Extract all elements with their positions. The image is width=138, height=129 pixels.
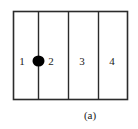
cell-label-3: 3 <box>75 56 89 67</box>
figure-container: 1 2 3 4 (a) <box>0 0 138 129</box>
figure-caption: (a) <box>70 110 110 121</box>
cell-label-2: 2 <box>44 56 58 67</box>
filled-ellipse-marker <box>33 55 45 66</box>
cell-label-1: 1 <box>15 56 29 67</box>
cell-label-4: 4 <box>105 56 119 67</box>
